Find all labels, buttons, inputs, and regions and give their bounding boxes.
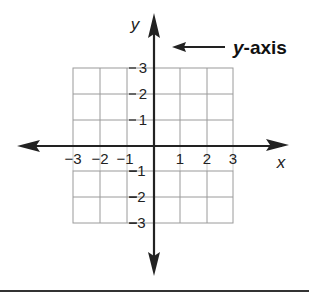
x-axis-name: x (276, 153, 286, 172)
x-tick-label: −3 (64, 150, 81, 167)
x-tick-label: 2 (203, 150, 211, 167)
x-tick-label: −2 (91, 150, 108, 167)
callout-text: -axis (244, 37, 287, 58)
y-tick-label: 1 (139, 111, 147, 128)
svg-text:y-axis: y-axis (232, 37, 287, 58)
y-axis (148, 13, 160, 276)
y-tick-label: −1 (128, 162, 145, 179)
y-tick-label: −3 (128, 214, 145, 231)
y-tick-label: 3 (139, 59, 147, 76)
x-tick-label: 3 (229, 150, 237, 167)
coordinate-plane: −3 −2 −1 1 2 3 3 2 1 −1 −2 −3 y x y-axis (0, 0, 309, 297)
y-axis-name: y (130, 15, 141, 34)
y-tick-label: 2 (139, 85, 147, 102)
y-tick-label: −2 (128, 188, 145, 205)
x-tick-label: 1 (176, 150, 184, 167)
callout-arrow-icon (172, 42, 186, 52)
y-axis-callout: y-axis (172, 37, 287, 58)
